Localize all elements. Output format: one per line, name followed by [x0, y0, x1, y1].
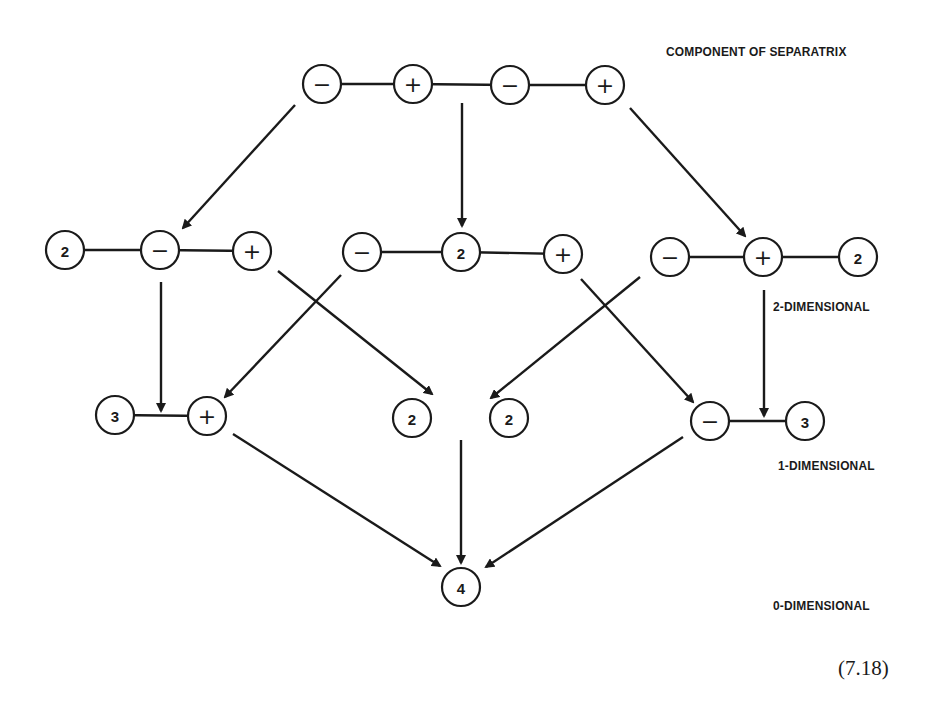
node-t2: +	[394, 65, 432, 103]
index-number: 2	[854, 250, 862, 267]
node-c1: −	[651, 238, 689, 276]
index-number: 4	[457, 580, 466, 597]
minus-sign: −	[501, 73, 519, 98]
arrow-9	[233, 434, 440, 566]
arrow-5	[278, 271, 432, 394]
node-c2: +	[744, 238, 782, 276]
minus-sign: −	[353, 240, 371, 265]
node-e1: 2	[393, 399, 431, 437]
node-g1: 4	[442, 568, 480, 606]
node-f1: −	[691, 402, 729, 440]
index-number: 3	[111, 408, 119, 425]
minus-sign: −	[313, 72, 331, 97]
node-f2: 3	[786, 402, 824, 440]
plus-sign: +	[554, 242, 572, 267]
index-number: 2	[505, 411, 513, 428]
separatrix-diagram: −+−+2−+−2+−+23+22−34	[0, 0, 939, 701]
node-b2: 2	[442, 233, 480, 271]
label-1-dimensional: 1-DIMENSIONAL	[778, 458, 875, 473]
minus-sign: −	[661, 245, 679, 270]
node-a3: +	[233, 232, 271, 270]
node-a1: 2	[46, 231, 84, 269]
node-a2: −	[141, 231, 179, 269]
node-d1: 3	[96, 396, 134, 434]
node-e2: 2	[490, 399, 528, 437]
minus-sign: −	[701, 409, 719, 434]
arrow-11	[486, 437, 683, 567]
minus-sign: −	[151, 238, 169, 263]
index-number: 2	[408, 411, 416, 428]
index-number: 2	[457, 245, 465, 262]
equation-number: (7.18)	[838, 656, 889, 681]
node-t1: −	[303, 65, 341, 103]
arrow-4	[225, 275, 341, 397]
plus-sign: +	[754, 245, 772, 270]
node-b1: −	[343, 233, 381, 271]
plus-sign: +	[243, 239, 261, 264]
index-number: 2	[61, 243, 69, 260]
node-c3: 2	[839, 238, 877, 276]
plus-sign: +	[198, 404, 216, 429]
node-t4: +	[586, 66, 624, 104]
node-d2: +	[188, 397, 226, 435]
plus-sign: +	[596, 73, 614, 98]
index-number: 3	[801, 414, 809, 431]
label-2-dimensional: 2-DIMENSIONAL	[773, 299, 870, 314]
arrow-6	[491, 277, 640, 398]
node-t3: −	[491, 66, 529, 104]
arrow-0	[183, 105, 295, 228]
arrow-7	[581, 279, 693, 402]
node-b3: +	[544, 235, 582, 273]
label-component-of-separatrix: COMPONENT OF SEPARATRIX	[666, 44, 847, 59]
plus-sign: +	[404, 72, 422, 97]
label-0-dimensional: 0-DIMENSIONAL	[773, 598, 870, 613]
arrow-2	[630, 108, 745, 236]
arrows-layer	[161, 103, 764, 567]
